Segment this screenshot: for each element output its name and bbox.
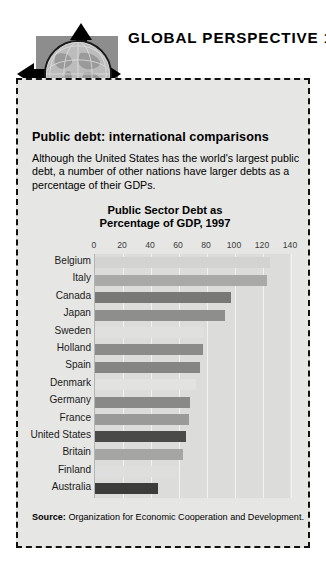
x-tick-label: 60: [173, 240, 183, 250]
chart-bar: [95, 292, 231, 303]
bar-category-label: Japan: [63, 307, 91, 318]
chart-bar: [95, 449, 183, 460]
chart-bar-row: Germany: [95, 393, 290, 410]
x-tick-label: 0: [92, 240, 97, 250]
bar-category-label: Sweden: [55, 325, 91, 336]
chart-bar: [95, 344, 203, 355]
chart-bar: [95, 310, 225, 321]
chart-title-line2: Percentage of GDP, 1997: [18, 217, 312, 230]
chart-bar: [95, 414, 189, 425]
chart-bar: [95, 397, 190, 408]
source-label: Source:: [32, 512, 66, 522]
chart-bar-row: United States: [95, 428, 290, 445]
chart-bar-row: Japan: [95, 306, 290, 323]
chart-plot-area: BelgiumItalyCanadaJapanSwedenHollandSpai…: [94, 254, 290, 498]
chart-bar: [95, 379, 196, 390]
bar-category-label: France: [60, 412, 91, 423]
chart-bar-row: Britain: [95, 445, 290, 462]
x-tick-label: 80: [201, 240, 211, 250]
chart-gridline: [291, 254, 292, 498]
bar-category-label: Belgium: [55, 255, 91, 266]
chart-bar: [95, 257, 270, 268]
x-tick-label: 40: [145, 240, 155, 250]
source-note: Source: Organization for Economic Cooper…: [32, 512, 304, 522]
chart-bar-row: Holland: [95, 341, 290, 358]
bar-chart: 020406080100120140 BelgiumItalyCanadaJap…: [18, 240, 312, 498]
chart-title: Public Sector Debt as Percentage of GDP,…: [18, 204, 312, 230]
page-title: GLOBAL PERSPECTIVE 19-1: [128, 29, 326, 46]
bar-category-label: Finland: [58, 464, 91, 475]
chart-bar: [95, 466, 179, 477]
x-tick-label: 20: [117, 240, 127, 250]
chart-bar-row: Canada: [95, 289, 290, 306]
chart-bar-row: Spain: [95, 358, 290, 375]
bar-category-label: Canada: [56, 290, 91, 301]
chart-bar-row: Australia: [95, 480, 290, 497]
chart-bar-row: Denmark: [95, 376, 290, 393]
chart-bar-row: Italy: [95, 271, 290, 288]
box-blurb: Although the United States has the world…: [32, 152, 300, 192]
chart-bar: [95, 275, 267, 286]
bar-category-label: Italy: [72, 272, 91, 283]
x-tick-label: 100: [227, 240, 241, 250]
x-tick-label: 120: [255, 240, 269, 250]
chart-bar: [95, 483, 158, 494]
x-axis-ticks: 020406080100120140: [94, 240, 290, 254]
bar-category-label: Britain: [62, 446, 91, 457]
bar-category-label: Denmark: [50, 377, 91, 388]
chart-title-line1: Public Sector Debt as: [18, 204, 312, 217]
bar-category-label: Spain: [65, 359, 91, 370]
chart-bar-row: Belgium: [95, 254, 290, 271]
box-headline: Public debt: international comparisons: [32, 130, 269, 144]
chart-bar: [95, 431, 186, 442]
bar-category-label: Germany: [49, 394, 91, 405]
x-tick-label: 140: [283, 240, 297, 250]
bar-category-label: United States: [30, 429, 91, 440]
bar-category-label: Holland: [57, 342, 91, 353]
chart-bar: [95, 362, 200, 373]
source-text: Organization for Economic Cooperation an…: [68, 512, 304, 522]
chart-bar: [95, 327, 204, 338]
chart-bar-row: Finland: [95, 463, 290, 480]
perspective-box: Public debt: international comparisons A…: [16, 78, 310, 548]
bar-category-label: Australia: [52, 481, 91, 492]
chart-bar-row: Sweden: [95, 324, 290, 341]
chart-bar-row: France: [95, 411, 290, 428]
page-root: GLOBAL PERSPECTIVE 19-1 Public debt: int…: [0, 0, 326, 567]
